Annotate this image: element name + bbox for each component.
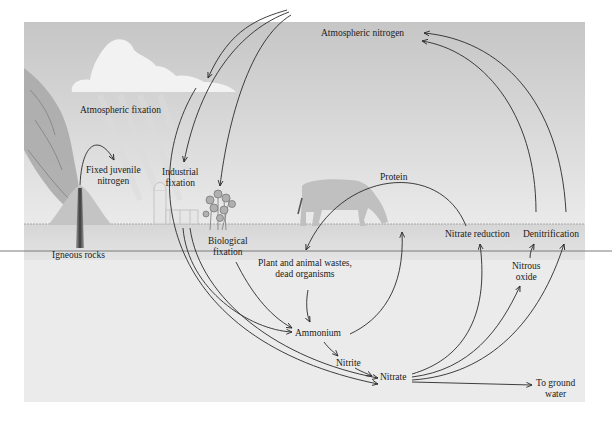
label-plant-animal-wastes: Plant and animal wastes, dead organisms — [258, 258, 352, 280]
label-nitrate-reduction: Nitrate reduction — [445, 229, 510, 240]
label-groundwater-line1: To ground — [536, 378, 575, 389]
label-industrial-fixation: Industrial fixation — [162, 167, 198, 189]
label-fixed-juvenile-line1: Fixed juvenile — [86, 165, 141, 176]
label-nitrous-oxide: Nitrous oxide — [512, 261, 541, 283]
label-wastes-line2: dead organisms — [258, 269, 352, 280]
label-denitrification: Denitrification — [523, 229, 579, 240]
label-groundwater-line2: water — [536, 389, 575, 400]
label-atmospheric-fixation: Atmospheric fixation — [80, 105, 161, 116]
label-industrial-line1: Industrial — [162, 167, 198, 178]
sky-background-right — [285, 22, 585, 246]
label-nitrite: Nitrite — [336, 358, 361, 369]
label-fixed-juvenile-nitrogen: Fixed juvenile nitrogen — [86, 165, 141, 187]
label-nitrate: Nitrate — [380, 372, 406, 383]
nitrogen-cycle-diagram — [0, 0, 612, 426]
label-biological-line2: fixation — [208, 247, 248, 258]
label-to-ground-water: To ground water — [536, 378, 575, 400]
label-atmospheric-nitrogen: Atmospheric nitrogen — [321, 28, 404, 39]
label-wastes-line1: Plant and animal wastes, — [258, 258, 352, 269]
label-nitrous-line2: oxide — [512, 272, 541, 283]
label-nitrous-line1: Nitrous — [512, 261, 541, 272]
label-industrial-line2: fixation — [162, 178, 198, 189]
label-protein: Protein — [380, 172, 407, 183]
label-biological-line1: Biological — [208, 236, 248, 247]
label-biological-fixation: Biological fixation — [208, 236, 248, 258]
label-ammonium: Ammonium — [295, 328, 341, 339]
label-fixed-juvenile-line2: nitrogen — [86, 176, 141, 187]
label-igneous-rocks: Igneous rocks — [52, 250, 105, 261]
